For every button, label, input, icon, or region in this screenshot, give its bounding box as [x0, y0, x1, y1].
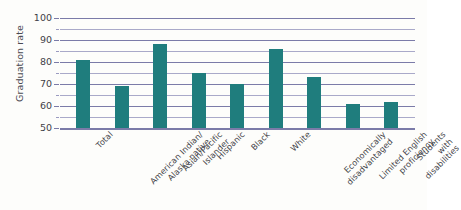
y-axis-tick	[54, 106, 59, 107]
y-axis-tick-label: 80	[22, 57, 52, 67]
x-axis-label: Total	[95, 130, 115, 150]
y-axis-tick	[54, 128, 59, 129]
y-axis-tick-minor	[56, 29, 59, 30]
plot-area	[60, 18, 415, 128]
gridline-major	[60, 40, 415, 41]
bar	[307, 77, 321, 128]
bar	[192, 73, 206, 128]
bar	[230, 84, 244, 128]
bar	[346, 104, 360, 128]
y-axis-tick	[54, 18, 59, 19]
y-axis-tick	[54, 40, 59, 41]
y-axis-tick	[54, 84, 59, 85]
y-axis-tick-label: 70	[22, 79, 52, 89]
x-axis-label: White	[289, 130, 313, 154]
y-axis-tick-minor	[56, 95, 59, 96]
y-axis-tick-minor	[56, 51, 59, 52]
bar	[269, 49, 283, 128]
y-axis-tick	[54, 62, 59, 63]
gridline-minor	[60, 51, 415, 52]
y-axis-tick-label: 50	[22, 123, 52, 133]
gridline-minor	[60, 73, 415, 74]
x-axis-category-labels: TotalAmerican Indian/ Alaska nativeAsian…	[0, 130, 427, 210]
y-axis-tick-minor	[56, 117, 59, 118]
gridline-major	[60, 62, 415, 63]
bar	[384, 102, 398, 128]
bar	[115, 86, 129, 128]
y-axis-tick-minor	[56, 73, 59, 74]
gridline-major	[60, 18, 415, 19]
bar	[153, 44, 167, 128]
x-axis-label: Black	[250, 130, 273, 153]
y-axis-tick-label: 100	[22, 13, 52, 23]
y-axis-tick-label: 60	[22, 101, 52, 111]
y-axis-tick-label: 90	[22, 35, 52, 45]
bar	[76, 60, 90, 128]
gridline-minor	[60, 29, 415, 30]
